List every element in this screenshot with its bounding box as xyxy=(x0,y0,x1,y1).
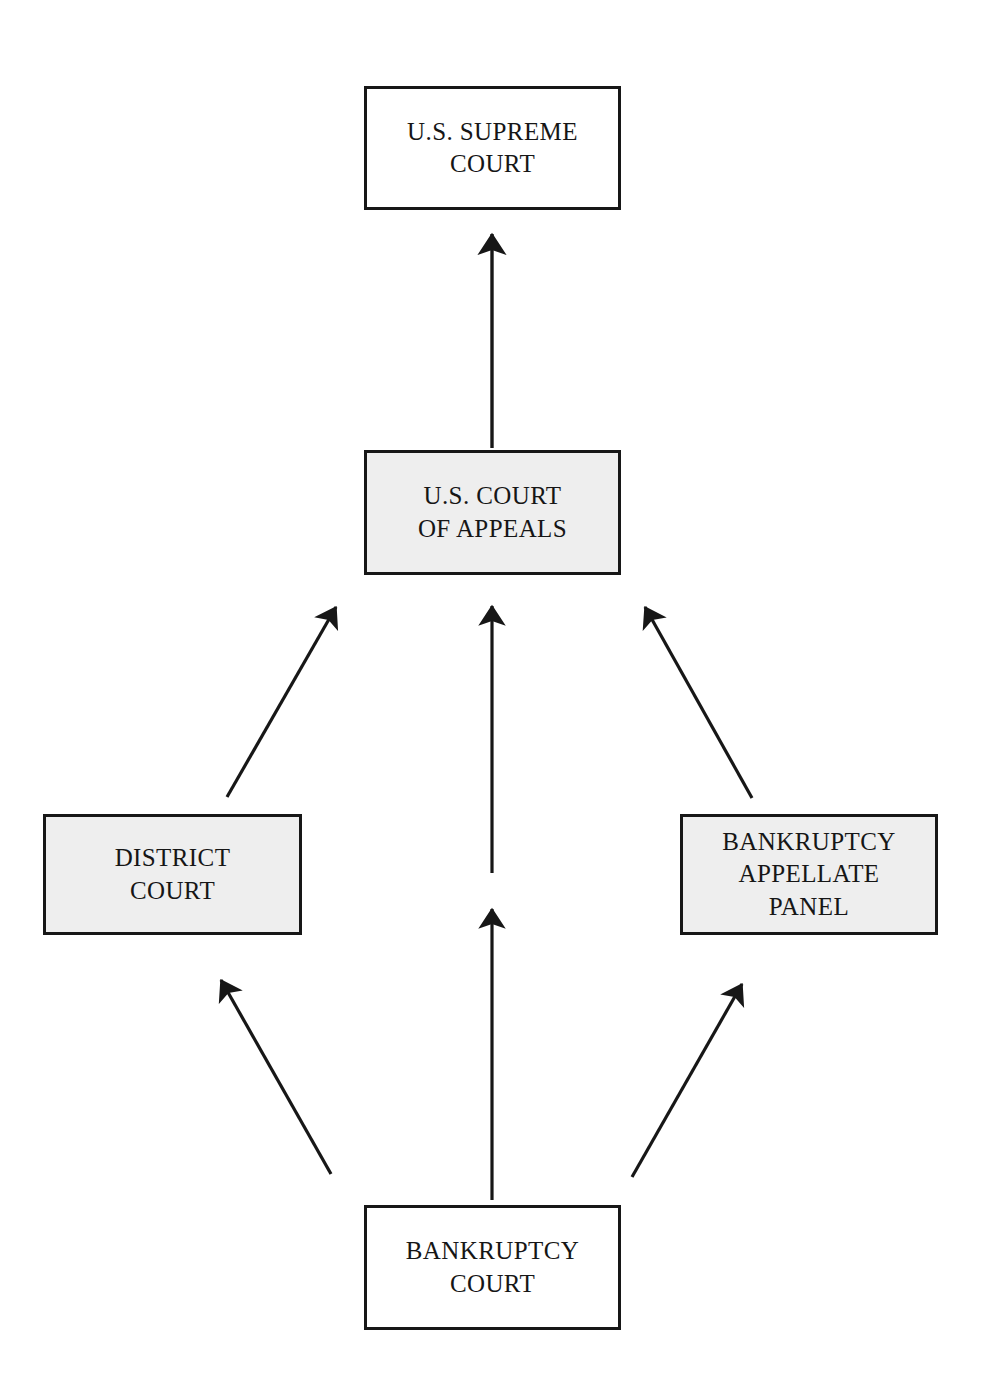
edge-bap-to-appeals xyxy=(645,607,752,798)
node-court-of-appeals: U.S. COURT OF APPEALS xyxy=(364,450,621,575)
node-court-of-appeals-label: U.S. COURT OF APPEALS xyxy=(412,480,573,545)
node-supreme-court-label: U.S. SUPREME COURT xyxy=(401,116,584,181)
node-district-court-label: DISTRICT COURT xyxy=(109,842,237,907)
node-bankruptcy-court-label: BANKRUPTCY COURT xyxy=(400,1235,585,1300)
node-bankruptcy-appellate-panel-label: BANKRUPTCY APPELLATE PANEL xyxy=(716,826,901,924)
court-hierarchy-diagram: U.S. SUPREME COURT U.S. COURT OF APPEALS… xyxy=(0,0,991,1394)
edge-bankruptcy-to-bap xyxy=(632,984,742,1177)
node-bankruptcy-appellate-panel: BANKRUPTCY APPELLATE PANEL xyxy=(680,814,938,935)
node-bankruptcy-court: BANKRUPTCY COURT xyxy=(364,1205,621,1330)
edge-bankruptcy-to-district xyxy=(221,980,331,1174)
node-district-court: DISTRICT COURT xyxy=(43,814,302,935)
edge-district-to-appeals xyxy=(227,607,336,797)
node-supreme-court: U.S. SUPREME COURT xyxy=(364,86,621,210)
